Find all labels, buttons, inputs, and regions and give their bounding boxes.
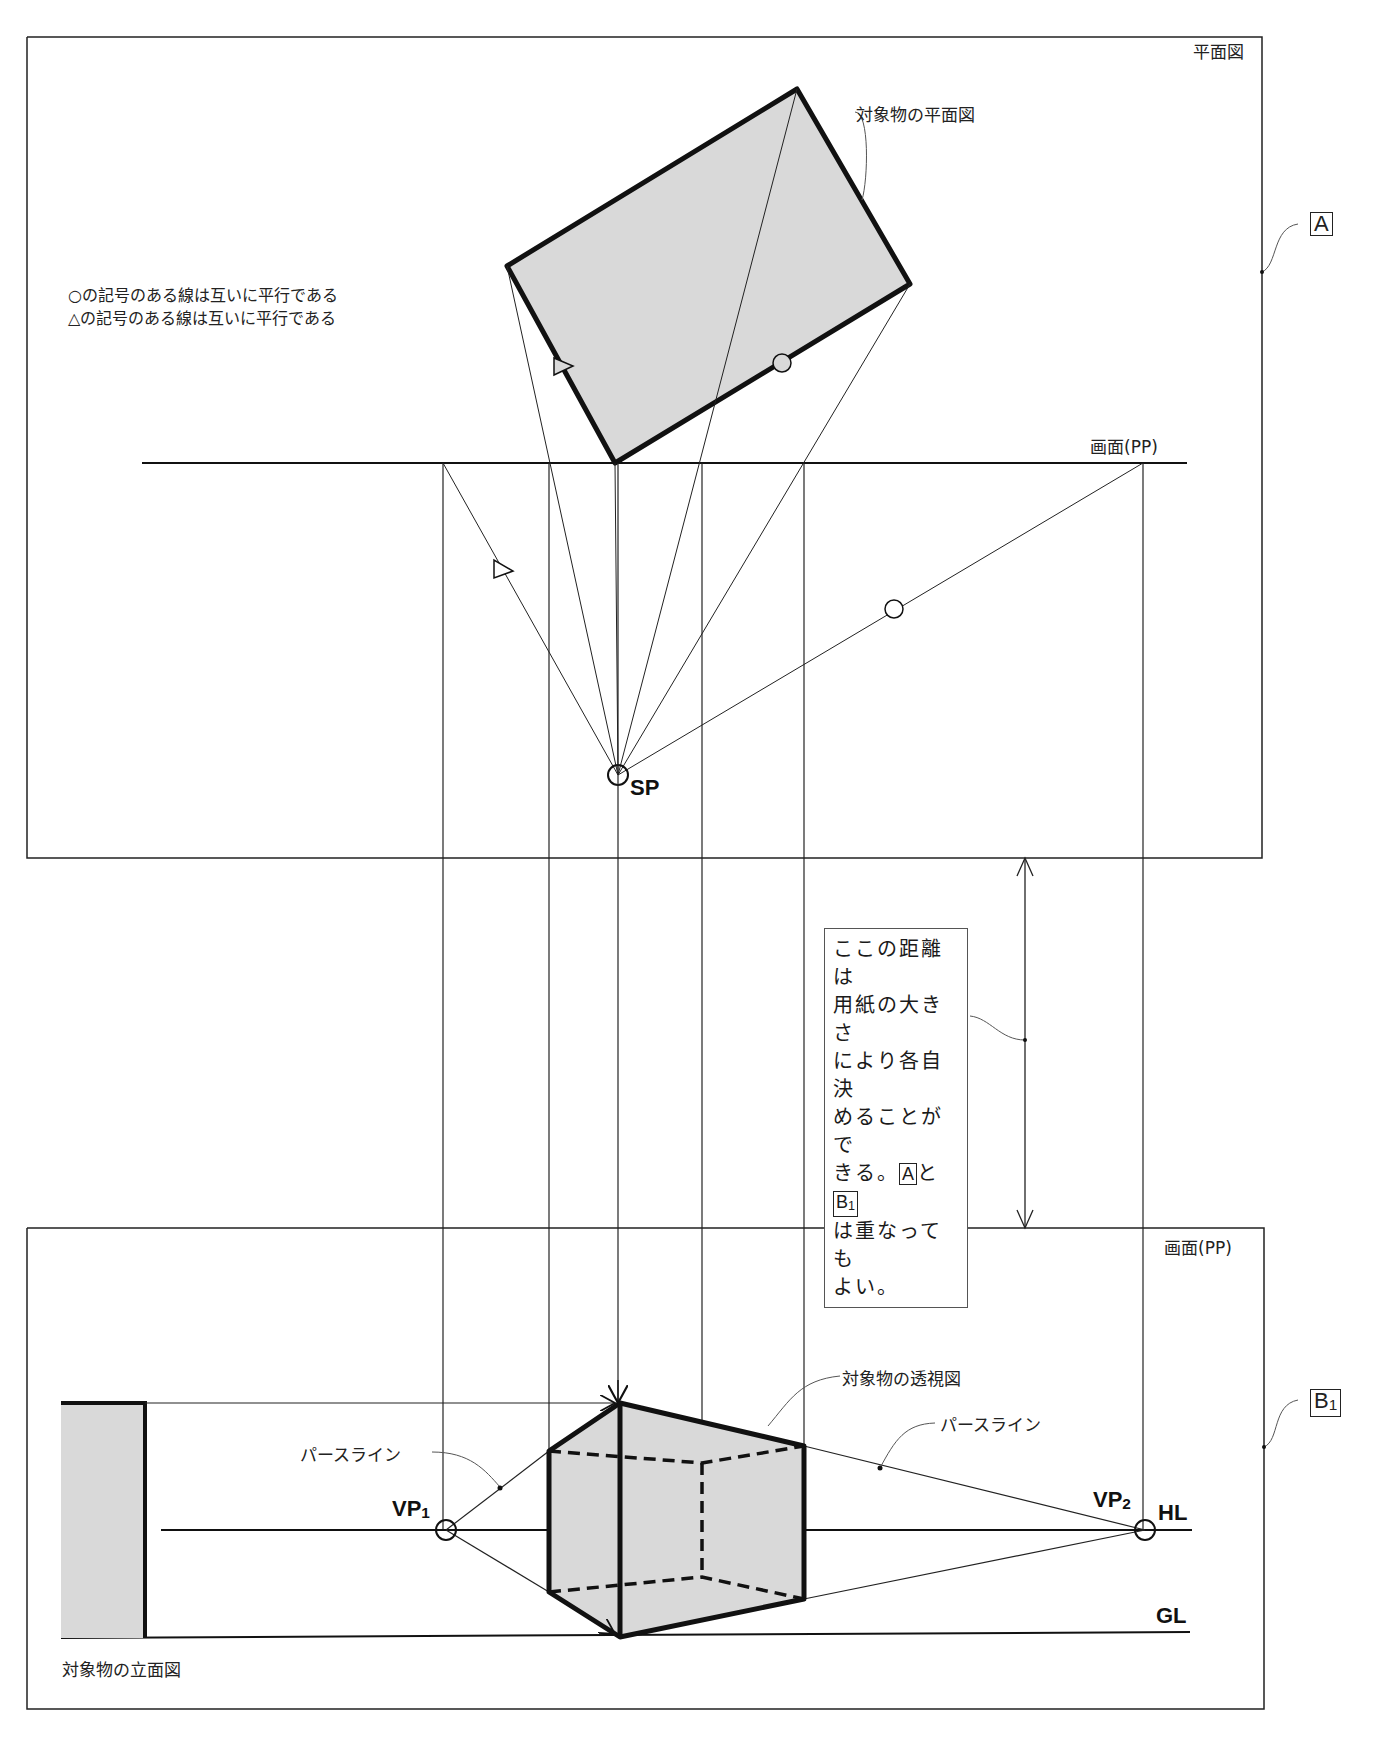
object-plan-shape (507, 89, 910, 463)
station-point-label: SP (630, 775, 659, 801)
plan-object-label: 対象物の平面図 (856, 101, 975, 126)
perspective-construction-drawing (0, 0, 1379, 1750)
perspective-object-label: 対象物の透視図 (842, 1365, 961, 1390)
picture-plane-label-plan: 画面(PP) (1090, 433, 1158, 458)
perspective-line-label-right: パースライン (940, 1411, 1041, 1436)
vp1-label: VP1 (392, 1496, 430, 1522)
note-tag-a: A (899, 1163, 917, 1185)
object-elevation-shape (61, 1403, 145, 1638)
frame-a-tag: A (1310, 212, 1333, 236)
frame-a-leader (1262, 224, 1298, 272)
projection-lines (443, 463, 1143, 1530)
spacing-note: ここの距離は 用紙の大きさ により各自決 めることがで きる。AとB1 は重なっ… (824, 928, 968, 1308)
vp2-label: VP2 (1093, 1487, 1131, 1513)
circle-marker-sightline (885, 600, 903, 618)
spacing-note-leader (970, 1016, 1025, 1040)
frame-b1-tag: B1 (1310, 1389, 1341, 1417)
perspective-line-leader-right (880, 1423, 935, 1468)
triangle-marker-sightline (494, 560, 513, 578)
parallel-note-triangle: △の記号のある線は互いに平行である (68, 307, 336, 331)
ground-line-label: GL (1156, 1603, 1187, 1629)
picture-plane-label-perspective: 画面(PP) (1164, 1234, 1232, 1259)
parallel-note-circle: ○の記号のある線は互いに平行である (68, 284, 338, 308)
note-tag-b1: B1 (833, 1191, 858, 1217)
frame-b1-leader (1264, 1400, 1298, 1447)
horizon-line-label: HL (1158, 1500, 1187, 1526)
perspective-line-leader-left (432, 1452, 500, 1487)
plan-frame-title: 平面図 (1193, 38, 1244, 63)
perspective-line-label-left: パースライン (300, 1441, 401, 1466)
spacing-dimension (1017, 858, 1033, 1228)
circle-marker-edge (773, 354, 791, 372)
elevation-label: 対象物の立面図 (62, 1656, 181, 1681)
